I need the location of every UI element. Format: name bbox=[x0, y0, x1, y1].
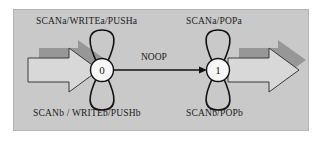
self-loop-label-state0-bottom: SCANb / WRITEb/PUSHb bbox=[33, 108, 141, 118]
self-loop-label-state0-top: SCANa/WRITEa/PUSHa bbox=[36, 16, 137, 26]
self-loop-label-state1-top: SCANa/POPa bbox=[186, 16, 242, 26]
state-node-0[interactable]: 0 bbox=[91, 59, 114, 82]
state-node-0-label: 0 bbox=[99, 64, 105, 76]
transition-label-noop: NOOP bbox=[141, 52, 167, 62]
exit-arrow bbox=[228, 40, 306, 92]
state-node-1[interactable]: 1 bbox=[207, 59, 230, 82]
fsm-diagram-stage: 0 1 SCANa/WRITEa/PUSHa SCANb / WRITEb/PU… bbox=[0, 0, 321, 142]
state-node-1-label: 1 bbox=[215, 64, 221, 76]
transition-0-to-1 bbox=[113, 67, 207, 74]
self-loop-label-state1-bottom: SCANb/POPb bbox=[186, 108, 243, 118]
